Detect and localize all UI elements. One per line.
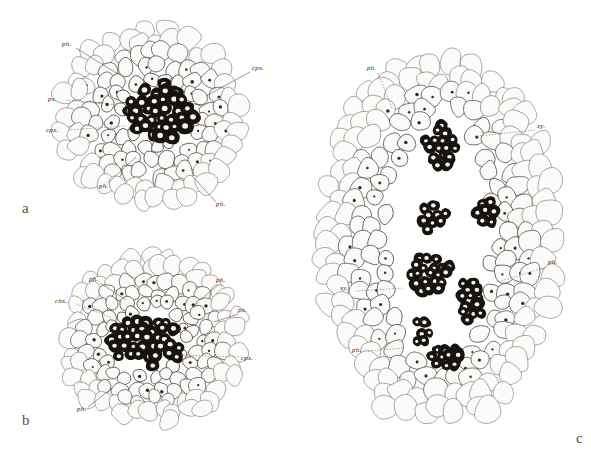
cell-nucleus	[373, 195, 375, 197]
xylem-lumen	[163, 88, 168, 93]
tissue-label-cbx: cbx.	[55, 297, 67, 305]
xylem-lumen	[414, 281, 419, 285]
cell-nucleus	[107, 361, 110, 364]
cell-nucleus	[471, 351, 473, 353]
cell-nucleus	[138, 375, 141, 378]
cell-nucleus	[478, 358, 481, 361]
tissue-label-ph: ph.	[215, 276, 225, 284]
tissue-label-ph: ph.	[366, 64, 376, 72]
xylem-lumen	[414, 263, 418, 267]
xylem-lumen	[160, 326, 165, 330]
cell-nucleus	[366, 167, 369, 170]
tissue-label-cpx: cpx.	[241, 354, 253, 362]
xylem-lumen	[451, 138, 455, 141]
xylem-lumen	[428, 331, 431, 334]
cell-nucleus	[379, 303, 382, 306]
tissue-label-px: px.	[47, 95, 57, 103]
xylem-lumen	[456, 353, 461, 357]
cell-nucleus	[384, 257, 387, 260]
xylem-lumen	[429, 271, 433, 274]
cell-nucleus	[431, 96, 434, 99]
xylem-lumen	[435, 257, 438, 260]
tissue-label-ph: ph.	[88, 275, 98, 283]
cell-nucleus	[208, 111, 210, 113]
tissue-label-cpx: cpx.	[46, 126, 58, 134]
xylem-lumen	[423, 207, 427, 211]
cell-nucleus	[475, 135, 478, 138]
cell-nucleus	[88, 305, 91, 308]
cell-nucleus	[197, 384, 199, 386]
cell-nucleus	[491, 348, 493, 350]
cell-nucleus	[121, 158, 123, 160]
xylem-lumen	[143, 123, 148, 128]
xylem-lumen	[162, 106, 168, 111]
cell-nucleus	[204, 304, 207, 307]
xylem-lumen	[150, 363, 155, 367]
xylem-lumen	[453, 147, 456, 150]
cell-nucleus	[110, 121, 113, 124]
xylem-lumen	[171, 326, 176, 331]
xylem-lumen	[431, 156, 436, 160]
cell-nucleus	[417, 121, 420, 124]
cell-nucleus	[100, 95, 103, 98]
xylem-lumen	[460, 294, 464, 298]
xylem-lumen	[422, 266, 425, 269]
cell-nucleus	[378, 182, 381, 185]
xylem-lumen	[433, 139, 437, 143]
xylem-lumen	[164, 125, 169, 130]
tissue-label-cpx: cpx.	[252, 64, 264, 72]
xylem-lumen	[177, 346, 181, 350]
cell-nucleus	[105, 103, 108, 106]
panel-b-letter: b	[22, 412, 30, 428]
xylem-lumen	[153, 353, 158, 357]
xylem-lumen	[483, 208, 488, 212]
xylem-lumen	[132, 345, 136, 348]
xylem-lumen	[158, 344, 163, 349]
cell-nucleus	[120, 292, 123, 295]
cell-nucleus	[353, 199, 356, 202]
tissue-label-ph: ph.	[351, 346, 361, 354]
cell-nucleus	[501, 273, 503, 275]
cell-nucleus	[514, 247, 517, 250]
cell-nucleus	[504, 318, 507, 321]
xylem-lumen	[125, 335, 129, 339]
cell-nucleus	[503, 212, 506, 215]
xylem-lumen	[421, 218, 426, 222]
cell-nucleus	[142, 280, 145, 283]
xylem-lumen	[443, 270, 448, 274]
cell-nucleus	[500, 247, 502, 249]
cell-nucleus	[397, 157, 400, 160]
xylem-lumen	[157, 133, 163, 138]
xylem-lumen	[446, 353, 450, 357]
cell-nucleus	[190, 80, 194, 84]
cell-nucleus	[404, 141, 408, 145]
cell-nucleus	[86, 134, 89, 137]
xylem-lumen	[437, 146, 441, 150]
cell	[190, 305, 205, 319]
cell-nucleus	[189, 361, 192, 364]
panel-c-letter: c	[576, 430, 583, 446]
cell	[495, 295, 511, 309]
cell-nucleus	[165, 300, 168, 303]
cell-nucleus	[92, 366, 94, 368]
cell-nucleus	[423, 108, 426, 111]
botanical-plate-figure: ph.cpx.px.cpx.ph.ph. a ph.ph.cbx.px.cpx.…	[0, 0, 591, 464]
xylem-lumen	[423, 280, 427, 283]
tissue-label-ph: ph.	[98, 182, 108, 190]
xylem-lumen	[190, 114, 196, 119]
cell-nucleus	[378, 338, 380, 340]
xylem-lumen	[475, 302, 480, 306]
cell-nucleus	[142, 302, 144, 304]
tissue-label-xy: xy.	[339, 284, 348, 292]
xylem-lumen	[122, 343, 127, 347]
xylem-lumen	[169, 118, 173, 122]
xylem-lumen	[479, 311, 483, 314]
cell-nucleus	[416, 361, 419, 364]
cell-nucleus	[521, 302, 524, 305]
xylem-lumen	[480, 219, 484, 223]
xylem-lumen	[444, 212, 448, 215]
cell-nucleus	[219, 105, 222, 108]
cell-nucleus	[92, 338, 95, 341]
xylem-lumen	[142, 87, 148, 92]
cell-nucleus	[506, 196, 508, 198]
